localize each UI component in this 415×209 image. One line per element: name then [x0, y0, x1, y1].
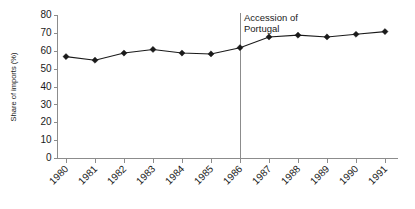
x-tick-label-1988: 1988 [279, 163, 303, 187]
chart-container: 01020304050607080Share of imports (%)198… [0, 0, 415, 209]
data-point-marker [63, 54, 69, 60]
y-tick-label-40: 40 [40, 81, 52, 92]
data-point-marker [208, 51, 214, 57]
x-tick-label-1989: 1989 [308, 163, 332, 187]
x-tick-label-1983: 1983 [134, 163, 158, 187]
x-tick-label-1980: 1980 [47, 163, 71, 187]
data-point-marker [266, 34, 272, 40]
x-tick-label-1982: 1982 [105, 163, 129, 187]
series-line-share-of-imports [66, 32, 385, 61]
annotation-line-1: Accession of [244, 12, 298, 23]
y-tick-label-10: 10 [40, 134, 52, 145]
data-point-marker [121, 50, 127, 56]
x-tick-label-1990: 1990 [337, 163, 361, 187]
x-tick-label-1985: 1985 [192, 163, 216, 187]
y-tick-label-50: 50 [40, 63, 52, 74]
y-axis-title: Share of imports (%) [9, 52, 18, 121]
data-point-marker [353, 31, 359, 37]
x-tick-label-1981: 1981 [76, 163, 100, 187]
data-point-marker [237, 45, 243, 51]
data-point-marker [179, 50, 185, 56]
x-tick-label-1986: 1986 [221, 163, 245, 187]
y-tick-label-30: 30 [40, 99, 52, 110]
y-tick-label-20: 20 [40, 116, 52, 127]
data-point-marker [382, 28, 388, 34]
data-point-marker [295, 32, 301, 38]
x-tick-label-1991: 1991 [366, 163, 390, 187]
data-point-marker [324, 34, 330, 40]
x-tick-label-1987: 1987 [250, 163, 274, 187]
data-point-marker [92, 57, 98, 63]
y-tick-label-60: 60 [40, 45, 52, 56]
y-tick-label-0: 0 [46, 152, 52, 163]
data-point-marker [150, 46, 156, 52]
x-tick-label-1984: 1984 [163, 163, 187, 187]
y-tick-label-80: 80 [40, 9, 52, 20]
y-tick-label-70: 70 [40, 27, 52, 38]
line-chart: 01020304050607080Share of imports (%)198… [0, 0, 415, 209]
annotation-line-2: Portugal [244, 23, 279, 34]
